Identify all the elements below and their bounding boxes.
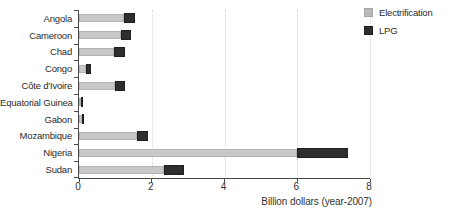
category-label: Sudan [0, 164, 78, 175]
bar-track [79, 44, 370, 61]
bar-track [79, 27, 370, 44]
bar-segment-electrification [79, 149, 297, 157]
bar-track [79, 111, 370, 128]
x-tick-label-8: 8 [366, 181, 372, 192]
legend-entry-electrification: Electrification [364, 7, 433, 18]
stacked-bar-chart: AngolaCameroonChadCongoCôte d'IvoireEqua… [0, 0, 449, 216]
bar-segment-lpg [121, 30, 131, 40]
bar-track [79, 128, 370, 145]
bar-row-4: Côte d'Ivoire [0, 77, 449, 94]
x-tick-label-4: 4 [221, 181, 227, 192]
bar-segment-electrification [79, 31, 121, 39]
bar-segment-electrification [79, 14, 124, 22]
lpg-swatch-icon [364, 26, 373, 35]
category-label: Angola [0, 13, 78, 24]
category-label: Chad [0, 46, 78, 57]
category-label: Equatorial Guinea [0, 97, 78, 108]
bar-segment-electrification [79, 48, 114, 56]
bar-segment-lpg [115, 81, 125, 91]
bar-row-9: Sudan [0, 161, 449, 178]
bar-track [79, 161, 370, 178]
bar-segment-electrification [79, 132, 137, 140]
bar-row-8: Nigeria [0, 144, 449, 161]
bar-row-6: Gabon [0, 111, 449, 128]
category-label: Cameroon [0, 30, 78, 41]
x-axis-tick-labels: 02468 [78, 181, 369, 193]
bar-track [79, 144, 370, 161]
legend-label-lpg: LPG [379, 25, 397, 36]
legend-label-electrification: Electrification [379, 7, 433, 18]
category-label: Congo [0, 63, 78, 74]
bar-row-5: Equatorial Guinea [0, 94, 449, 111]
bar-segment-electrification [79, 166, 164, 174]
bar-track [79, 60, 370, 77]
x-tick-label-0: 0 [75, 181, 81, 192]
bar-segment-lpg [164, 165, 184, 175]
bar-segment-electrification [79, 82, 115, 90]
bar-row-7: Mozambique [0, 128, 449, 145]
category-label: Mozambique [0, 130, 78, 141]
category-label: Gabon [0, 114, 78, 125]
legend: Electrification LPG [364, 7, 433, 43]
bar-track [79, 94, 370, 111]
bar-row-3: Congo [0, 60, 449, 77]
bar-segment-lpg [82, 114, 84, 124]
bar-track [79, 10, 370, 27]
category-label: Nigeria [0, 147, 78, 158]
x-tick-label-6: 6 [293, 181, 299, 192]
x-tick-label-2: 2 [148, 181, 154, 192]
electrification-swatch-icon [364, 8, 373, 17]
category-label: Côte d'Ivoire [0, 80, 78, 91]
x-axis-title: Billion dollars (year-2007) [78, 196, 372, 207]
bar-row-2: Chad [0, 44, 449, 61]
bar-segment-lpg [124, 13, 135, 23]
bar-segment-lpg [137, 131, 148, 141]
bar-segment-lpg [114, 47, 125, 57]
bar-segment-lpg [297, 148, 348, 158]
bar-segment-lpg [86, 64, 91, 74]
bar-track [79, 77, 370, 94]
bar-segment-lpg [81, 97, 83, 107]
legend-entry-lpg: LPG [364, 25, 433, 36]
